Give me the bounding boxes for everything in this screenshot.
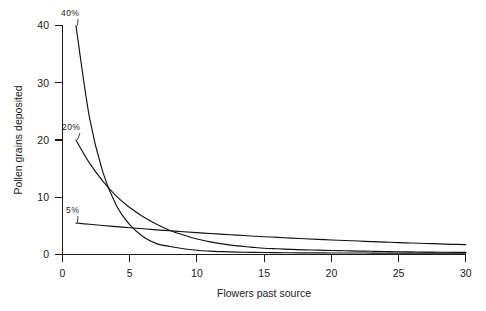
y-tick-label-10: 10: [37, 191, 49, 203]
x-tick-label-5: 5: [127, 267, 133, 279]
chart-figure: 40 30 20 10 0 0 5 10 15 20 25 30 Flowe: [0, 0, 486, 311]
series-leader-5pct: [77, 216, 78, 223]
curve-5pct: [76, 223, 466, 245]
curve-20pct: [76, 140, 466, 252]
x-tick-label-15: 15: [258, 267, 270, 279]
x-tick-label-20: 20: [326, 267, 338, 279]
y-tick-label-20: 20: [37, 134, 49, 146]
y-tick-label-30: 30: [37, 77, 49, 89]
series-leader-20pct: [77, 133, 80, 140]
y-tick-marks: [55, 26, 63, 255]
chart-plot-area: 40 30 20 10 0 0 5 10 15 20 25 30 Flowe: [0, 0, 486, 311]
series-label-20pct: 20%: [62, 122, 80, 132]
x-tick-label-10: 10: [191, 267, 203, 279]
curve-40pct: [76, 26, 466, 254]
series-label-40pct: 40%: [61, 8, 79, 18]
y-tick-labels: 40 30 20 10 0: [37, 19, 49, 260]
x-tick-label-30: 30: [460, 267, 472, 279]
series-leader-40pct: [77, 19, 78, 26]
axes-group: [63, 25, 467, 255]
x-axis-title: Flowers past source: [217, 287, 311, 299]
x-tick-marks: [63, 255, 466, 263]
series-label-5pct: 5%: [66, 205, 79, 215]
x-tick-label-25: 25: [393, 267, 405, 279]
x-tick-label-0: 0: [60, 267, 66, 279]
x-tick-labels: 0 5 10 15 20 25 30: [60, 267, 472, 279]
y-tick-label-0: 0: [43, 248, 49, 260]
y-axis-title: Pollen grains deposited: [12, 85, 24, 194]
data-curves-group: [76, 26, 466, 254]
y-tick-label-40: 40: [37, 19, 49, 31]
